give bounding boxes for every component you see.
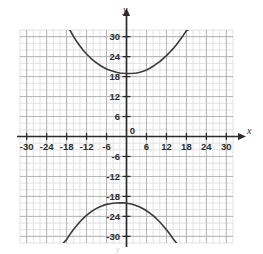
bottom-faint-axis-label: y	[115, 245, 120, 254]
x-axis-label: x	[246, 125, 252, 136]
tick-label: -12	[106, 171, 120, 182]
tick-label: -30	[20, 141, 34, 152]
tick-label: 0	[130, 125, 135, 136]
tick-label: -12	[80, 141, 94, 152]
tick-label: 18	[181, 141, 192, 152]
graph-screenshot: -30-24-18-12-60612182430302418126-6-12-1…	[0, 0, 263, 254]
tick-label: -24	[40, 141, 54, 152]
tick-label: -6	[102, 141, 110, 152]
tick-label: -30	[106, 231, 120, 242]
tick-label: 12	[109, 91, 120, 102]
tick-label: 6	[144, 141, 149, 152]
tick-label: -24	[106, 211, 120, 222]
tick-label: 24	[201, 141, 212, 152]
tick-label: 30	[221, 141, 232, 152]
tick-label: 18	[109, 71, 120, 82]
tick-label: 6	[115, 111, 120, 122]
tick-label: -6	[112, 151, 120, 162]
coordinate-plane-graph: -30-24-18-12-60612182430302418126-6-12-1…	[0, 0, 263, 254]
tick-label: 12	[161, 141, 172, 152]
y-axis-label: y	[122, 4, 128, 15]
tick-label: 30	[109, 31, 120, 42]
tick-label: -18	[106, 191, 120, 202]
tick-label: -18	[60, 141, 74, 152]
tick-label: 24	[109, 51, 120, 62]
